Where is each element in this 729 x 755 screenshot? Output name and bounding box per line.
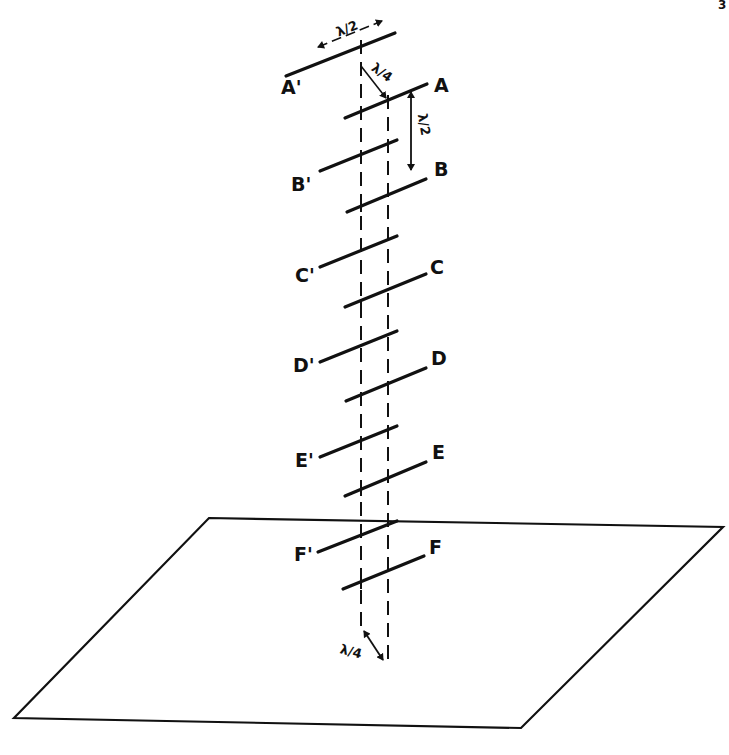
label-e-prime: E' (295, 451, 314, 470)
element-c-prime (320, 236, 397, 267)
label-a-prime: A' (281, 78, 302, 97)
label-f: F (429, 538, 442, 557)
label-c-prime: C' (295, 266, 315, 285)
page-number: 3 (718, 0, 726, 12)
label-e: E (432, 443, 445, 462)
label-a: A (434, 76, 449, 95)
element-d-prime (320, 331, 397, 362)
ground-plane (14, 518, 723, 728)
label-c: C (430, 258, 444, 277)
label-d-prime: D' (293, 356, 315, 375)
element-d (346, 368, 426, 401)
element-e-prime (320, 426, 397, 457)
element-a (345, 84, 427, 118)
element-f (343, 556, 424, 589)
antenna-array-diagram (0, 0, 729, 755)
label-b: B (434, 160, 448, 179)
element-b (347, 179, 426, 212)
label-f-prime: F' (294, 545, 313, 564)
element-f-prime (318, 521, 397, 552)
dimension-arrow-spacing-bottom (364, 631, 383, 660)
label-vertical-spacing: λ/2 (416, 113, 433, 137)
element-c (345, 274, 426, 307)
label-b-prime: B' (291, 175, 311, 194)
element-e (345, 462, 426, 496)
label-d: D (431, 349, 447, 368)
element-b-prime (320, 140, 397, 171)
